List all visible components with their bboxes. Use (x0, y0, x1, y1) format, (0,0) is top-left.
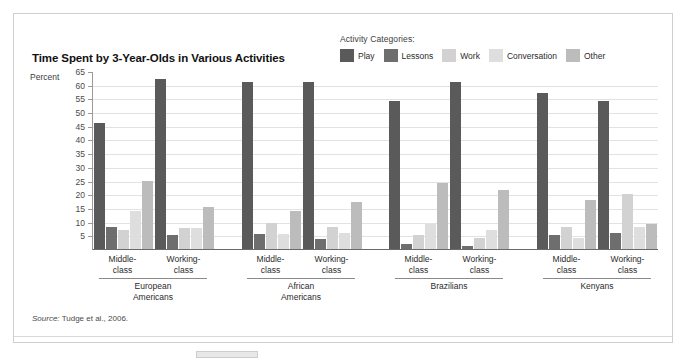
legend-label: Other (584, 51, 605, 61)
bar-group (597, 72, 658, 249)
bar-work (266, 223, 277, 249)
x-group-name: AfricanAmericans (240, 281, 362, 302)
x-group-rule (99, 278, 207, 279)
y-tick-label: 5 (80, 231, 85, 241)
y-axis-title: Percent (30, 72, 59, 82)
bar-conversation (634, 227, 645, 249)
legend-title: Activity Categories: (340, 34, 640, 44)
footer-divider (14, 336, 672, 337)
bar-group (154, 72, 215, 249)
bar-other (203, 207, 214, 249)
page-edge-artifact (196, 351, 258, 358)
bar-group (449, 72, 510, 249)
bar-lessons (167, 235, 178, 249)
y-tick-label: 35 (76, 149, 85, 159)
bar-other (142, 181, 153, 249)
y-tick-label: 25 (76, 177, 85, 187)
plot-wrapper: 6560555045403530252015105 (66, 72, 658, 250)
bar-play (537, 93, 548, 249)
bar-play (450, 82, 461, 249)
x-group-rule (247, 278, 355, 279)
legend-item-play[interactable]: Play (340, 49, 375, 62)
y-tick-label: 55 (76, 94, 85, 104)
bar-lessons (106, 227, 117, 249)
x-subgroup-label: Working-class (449, 254, 510, 275)
bar-conversation (425, 224, 436, 249)
bar-other (437, 183, 448, 249)
source-label: Source: (32, 314, 60, 323)
bar-lessons (254, 234, 265, 249)
bar-lessons (462, 246, 473, 249)
y-tick-label: 15 (76, 204, 85, 214)
bar-group (388, 72, 449, 249)
y-tick-label: 30 (76, 163, 85, 173)
bar-conversation (278, 234, 289, 249)
chart-legend: Activity Categories: PlayLessonsWorkConv… (340, 34, 640, 62)
source-note: Source: Tudge et al., 2006. (32, 314, 128, 323)
x-subgroup-label: Middle-class (388, 254, 449, 275)
source-citation: Tudge et al., 2006. (60, 314, 129, 323)
bar-work (413, 235, 424, 249)
x-subgroup-label: Middle-class (92, 254, 153, 275)
legend-label: Lessons (402, 51, 434, 61)
legend-swatch-work-icon (442, 49, 456, 62)
bar-work (474, 238, 485, 249)
x-subgroup-label: Middle-class (536, 254, 597, 275)
legend-swatch-conversation-icon (489, 49, 503, 62)
y-tick-label: 65 (76, 67, 85, 77)
bar-conversation (339, 233, 350, 249)
bar-group (302, 72, 363, 249)
bar-work (179, 228, 190, 249)
bar-conversation (573, 238, 584, 249)
bar-lessons (401, 244, 412, 249)
plot-area (92, 72, 658, 250)
bar-work (327, 227, 338, 249)
bar-group (241, 72, 302, 249)
x-group-rule (395, 278, 503, 279)
y-tick-label: 20 (76, 190, 85, 200)
bar-play (303, 82, 314, 249)
x-group-block: Middle-classWorking-classKenyans (536, 254, 658, 292)
y-tick-label: 40 (76, 135, 85, 145)
chart-title: Time Spent by 3-Year-Olds in Various Act… (32, 52, 285, 64)
legend-item-lessons[interactable]: Lessons (384, 49, 434, 62)
x-group-block: Middle-classWorking-classEuropeanAmerica… (92, 254, 214, 302)
y-tick-label: 45 (76, 122, 85, 132)
bar-other (498, 190, 509, 249)
bar-group (536, 72, 597, 249)
x-subgroup-row: Middle-classWorking-class (388, 254, 510, 275)
x-group-block: Middle-classWorking-classBrazilians (388, 254, 510, 292)
y-tick-label: 10 (76, 218, 85, 228)
group-separator (215, 72, 241, 249)
legend-swatch-play-icon (340, 49, 354, 62)
x-subgroup-row: Middle-classWorking-class (92, 254, 214, 275)
legend-label: Work (460, 51, 480, 61)
x-group-name: Brazilians (388, 281, 510, 292)
bar-lessons (549, 235, 560, 249)
bar-play (389, 101, 400, 249)
bar-work (561, 227, 572, 249)
bar-work (118, 230, 129, 249)
bar-play (242, 82, 253, 249)
legend-swatch-other-icon (566, 49, 580, 62)
x-group-name: EuropeanAmericans (92, 281, 214, 302)
legend-items: PlayLessonsWorkConversationOther (340, 49, 640, 62)
bar-lessons (610, 233, 621, 249)
group-separator (510, 72, 536, 249)
bar-other (351, 202, 362, 249)
bar-group (93, 72, 154, 249)
y-tick-label: 60 (76, 81, 85, 91)
bar-lessons (315, 239, 326, 249)
legend-swatch-lessons-icon (384, 49, 398, 62)
x-group-block: Middle-classWorking-classAfricanAmerican… (240, 254, 362, 302)
bar-play (598, 101, 609, 249)
x-axis-labels: Middle-classWorking-classEuropeanAmerica… (92, 254, 658, 330)
y-axis-ticks: 6560555045403530252015105 (66, 72, 88, 250)
legend-item-work[interactable]: Work (442, 49, 480, 62)
legend-label: Conversation (507, 51, 557, 61)
x-subgroup-row: Middle-classWorking-class (536, 254, 658, 275)
legend-item-conversation[interactable]: Conversation (489, 49, 557, 62)
legend-item-other[interactable]: Other (566, 49, 605, 62)
x-group-rule (543, 278, 651, 279)
x-subgroup-label: Working-class (597, 254, 658, 275)
